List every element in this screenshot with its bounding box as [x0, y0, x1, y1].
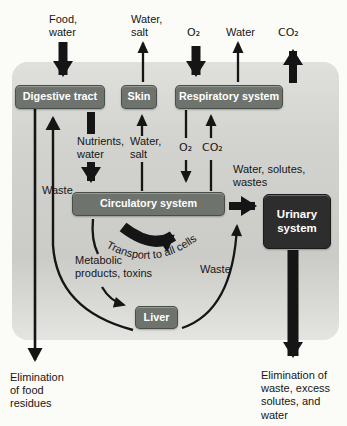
label-waste-right: Waste — [200, 263, 231, 276]
box-skin: Skin — [121, 85, 157, 109]
label-water-top: Water — [226, 26, 255, 39]
label-o2-inner: O₂ — [179, 141, 192, 154]
label-o2-top: O₂ — [187, 26, 200, 39]
box-circulatory-system: Circulatory system — [72, 192, 225, 216]
box-urinary-system: Urinary system — [263, 194, 331, 249]
label-water-salt-inner: Water, salt — [130, 135, 161, 161]
label-waste-left: Waste — [42, 184, 73, 197]
label-metabolic-products: Metabolic products, toxins — [75, 254, 152, 280]
label-water-solutes-wastes: Water, solutes, wastes — [233, 163, 305, 189]
box-respiratory-system: Respiratory system — [175, 85, 283, 109]
label-food-water: Food, water — [49, 13, 77, 39]
label-elimination-waste-solutes: Elimination of waste, excess solutes, an… — [261, 369, 330, 422]
box-digestive-tract: Digestive tract — [15, 85, 105, 109]
box-liver: Liver — [135, 306, 178, 329]
label-nutrients-water: Nutrients, water — [77, 135, 124, 161]
label-elimination-food-residues: Elimination of food residues — [10, 371, 64, 411]
organ-systems-exchange-diagram: Transport to all cells Food, water Water… — [0, 0, 347, 426]
label-co2-inner: CO₂ — [202, 141, 223, 154]
label-co2-top: CO₂ — [278, 26, 299, 39]
label-water-salt-top: Water, salt — [131, 13, 162, 39]
